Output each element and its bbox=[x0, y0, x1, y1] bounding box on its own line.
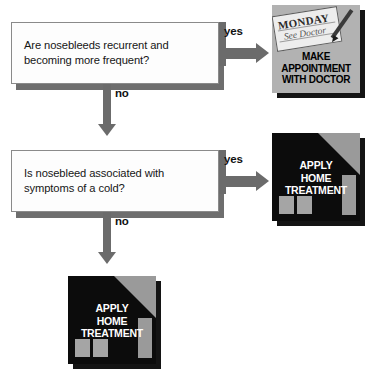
doctor-appointment-icon[interactable]: MONDAY See Doctor MAKE APPOINTMENT WITH … bbox=[272, 5, 360, 93]
no-arrow-1-head bbox=[98, 124, 116, 136]
question-box-1[interactable]: Are nosebleeds recurrent and becoming mo… bbox=[11, 22, 219, 84]
no-label-2: no bbox=[115, 215, 129, 227]
flowchart-canvas: Are nosebleeds recurrent and becoming mo… bbox=[0, 0, 374, 386]
home-treatment-icon-bottom[interactable]: APPLY HOME TREATMENT bbox=[68, 276, 156, 364]
question-box-2[interactable]: Is nosebleed associated with symptoms of… bbox=[11, 150, 219, 212]
question-box-1-text: Are nosebleeds recurrent and becoming mo… bbox=[24, 38, 169, 68]
yes-arrow-1-head bbox=[256, 43, 269, 63]
yes-arrow-1-stem-horizontal bbox=[219, 48, 257, 59]
house-window-left bbox=[74, 338, 91, 358]
house-window-left bbox=[278, 195, 295, 215]
no-arrow-2-stem bbox=[103, 212, 111, 254]
yes-arrow-2-stem-horizontal bbox=[219, 176, 257, 187]
doctor-icon-caption: MAKE APPOINTMENT WITH DOCTOR bbox=[272, 51, 360, 86]
home-treatment-bottom-face: APPLY HOME TREATMENT bbox=[68, 276, 156, 364]
yes-label-1: yes bbox=[224, 25, 243, 37]
home-treatment-right-caption: APPLY HOME TREATMENT bbox=[272, 159, 360, 197]
house-window-right bbox=[92, 338, 109, 358]
yes-label-2: yes bbox=[224, 153, 243, 165]
home-treatment-right-face: APPLY HOME TREATMENT bbox=[272, 133, 360, 221]
doctor-icon-face: MONDAY See Doctor MAKE APPOINTMENT WITH … bbox=[272, 5, 360, 93]
home-treatment-icon-right[interactable]: APPLY HOME TREATMENT bbox=[272, 133, 360, 221]
question-box-2-text: Is nosebleed associated with symptoms of… bbox=[24, 166, 164, 196]
no-arrow-2-head bbox=[98, 252, 116, 264]
no-label-1: no bbox=[115, 87, 129, 99]
yes-arrow-2-head bbox=[256, 171, 269, 191]
home-treatment-bottom-caption: APPLY HOME TREATMENT bbox=[68, 302, 156, 340]
house-window-right bbox=[296, 195, 313, 215]
no-arrow-1-stem bbox=[103, 84, 111, 126]
calendar-note-paper: MONDAY See Doctor bbox=[272, 6, 342, 52]
